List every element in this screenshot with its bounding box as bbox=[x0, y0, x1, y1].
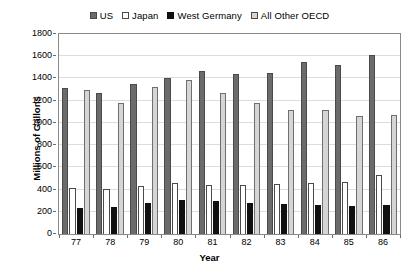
bar-japan-85[interactable] bbox=[342, 182, 348, 234]
y-tick-mark bbox=[53, 100, 56, 101]
bar-all-other-oecd-78[interactable] bbox=[118, 103, 124, 234]
bar-group-86 bbox=[366, 34, 400, 234]
bar-us-84[interactable] bbox=[301, 62, 307, 234]
bar-us-77[interactable] bbox=[62, 88, 68, 234]
bar-group-82 bbox=[229, 34, 263, 234]
x-tick-mark bbox=[230, 235, 231, 238]
y-tick-mark bbox=[53, 77, 56, 78]
y-tick-label: 1000 bbox=[32, 117, 52, 126]
x-tick-mark bbox=[161, 235, 162, 238]
y-tick-label: 800 bbox=[37, 140, 52, 149]
x-tick-label-85: 85 bbox=[332, 235, 366, 251]
bar-west-germany-85[interactable] bbox=[349, 206, 355, 234]
x-tick-label-81: 81 bbox=[195, 235, 229, 251]
bar-group-83 bbox=[264, 34, 298, 234]
y-tick-label: 0 bbox=[47, 229, 52, 238]
x-tick-label-86: 86 bbox=[366, 235, 400, 251]
legend-swatch-us bbox=[90, 12, 97, 19]
bar-group-81 bbox=[195, 34, 229, 234]
x-tick-mark bbox=[400, 235, 401, 238]
y-tick-mark bbox=[53, 233, 56, 234]
bar-us-81[interactable] bbox=[199, 71, 205, 234]
bar-us-85[interactable] bbox=[335, 65, 341, 234]
y-tick-label: 1400 bbox=[32, 73, 52, 82]
bar-japan-80[interactable] bbox=[172, 183, 178, 234]
bar-group-78 bbox=[93, 34, 127, 234]
bar-japan-83[interactable] bbox=[274, 184, 280, 234]
x-tick-label-78: 78 bbox=[93, 235, 127, 251]
bar-japan-84[interactable] bbox=[308, 183, 314, 234]
bar-west-germany-84[interactable] bbox=[315, 205, 321, 234]
bar-west-germany-78[interactable] bbox=[111, 207, 117, 234]
x-tick-mark bbox=[264, 235, 265, 238]
x-tick-label-82: 82 bbox=[229, 235, 263, 251]
x-tick-mark bbox=[366, 235, 367, 238]
y-tick-mark bbox=[53, 122, 56, 123]
bar-all-other-oecd-81[interactable] bbox=[220, 93, 226, 234]
x-tick-mark bbox=[59, 235, 60, 238]
bar-japan-78[interactable] bbox=[103, 189, 109, 234]
legend-item-west-germany[interactable]: West Germany bbox=[167, 11, 241, 21]
bar-group-77 bbox=[59, 34, 93, 234]
x-tick-label-79: 79 bbox=[127, 235, 161, 251]
bar-all-other-oecd-83[interactable] bbox=[288, 110, 294, 234]
bar-all-other-oecd-79[interactable] bbox=[152, 87, 158, 234]
legend-label: West Germany bbox=[177, 11, 241, 21]
x-tick-label-80: 80 bbox=[161, 235, 195, 251]
x-tick-label-84: 84 bbox=[298, 235, 332, 251]
bar-west-germany-82[interactable] bbox=[247, 203, 253, 234]
x-tick-mark bbox=[93, 235, 94, 238]
y-tick-label: 1200 bbox=[32, 95, 52, 104]
y-tick-mark bbox=[53, 144, 56, 145]
legend-item-all-other-oecd[interactable]: All Other OECD bbox=[251, 11, 329, 21]
y-tick-label: 200 bbox=[37, 206, 52, 215]
x-tick-label-77: 77 bbox=[59, 235, 93, 251]
bar-west-germany-79[interactable] bbox=[145, 203, 151, 234]
bar-all-other-oecd-82[interactable] bbox=[254, 103, 260, 234]
bar-japan-81[interactable] bbox=[206, 185, 212, 234]
bar-group-84 bbox=[298, 34, 332, 234]
bar-us-83[interactable] bbox=[267, 73, 273, 234]
x-tick-mark bbox=[127, 235, 128, 238]
bar-japan-77[interactable] bbox=[69, 188, 75, 234]
legend-item-japan[interactable]: Japan bbox=[122, 11, 158, 21]
bar-us-86[interactable] bbox=[369, 55, 375, 234]
bar-us-79[interactable] bbox=[130, 84, 136, 234]
bar-all-other-oecd-80[interactable] bbox=[186, 80, 192, 234]
y-tick-mark bbox=[53, 33, 56, 34]
y-tick-mark bbox=[53, 55, 56, 56]
legend-label: All Other OECD bbox=[261, 11, 329, 21]
legend-label: US bbox=[100, 11, 113, 21]
x-tick-mark bbox=[298, 235, 299, 238]
x-tick-label-83: 83 bbox=[264, 235, 298, 251]
legend-swatch-all-other-oecd bbox=[251, 12, 258, 19]
y-tick-label: 1600 bbox=[32, 51, 52, 60]
y-tick-label: 400 bbox=[37, 184, 52, 193]
bar-all-other-oecd-85[interactable] bbox=[356, 116, 362, 234]
y-tick-mark bbox=[53, 189, 56, 190]
bar-us-78[interactable] bbox=[96, 93, 102, 234]
bar-west-germany-80[interactable] bbox=[179, 200, 185, 234]
y-tick-mark bbox=[53, 166, 56, 167]
chart-root: USJapanWest GermanyAll Other OECD Millio… bbox=[0, 0, 419, 274]
bar-japan-79[interactable] bbox=[138, 186, 144, 234]
bar-west-germany-83[interactable] bbox=[281, 204, 287, 234]
bar-all-other-oecd-84[interactable] bbox=[322, 110, 328, 234]
legend-swatch-west-germany bbox=[167, 12, 174, 19]
chart-legend: USJapanWest GermanyAll Other OECD bbox=[0, 11, 419, 21]
y-axis: Millions of Gallons 18001600140012001000… bbox=[18, 33, 56, 234]
bar-group-80 bbox=[161, 34, 195, 234]
x-tick-mark bbox=[195, 235, 196, 238]
legend-item-us[interactable]: US bbox=[90, 11, 113, 21]
bar-all-other-oecd-77[interactable] bbox=[84, 90, 90, 234]
bar-all-other-oecd-86[interactable] bbox=[391, 115, 397, 234]
bar-west-germany-81[interactable] bbox=[213, 201, 219, 234]
bar-west-germany-77[interactable] bbox=[77, 208, 83, 234]
bar-west-germany-86[interactable] bbox=[383, 205, 389, 234]
bar-japan-82[interactable] bbox=[240, 185, 246, 234]
bar-us-82[interactable] bbox=[233, 74, 239, 234]
y-tick-label: 1800 bbox=[32, 29, 52, 38]
legend-swatch-japan bbox=[122, 12, 129, 19]
bar-japan-86[interactable] bbox=[376, 175, 382, 234]
bar-us-80[interactable] bbox=[164, 78, 170, 234]
